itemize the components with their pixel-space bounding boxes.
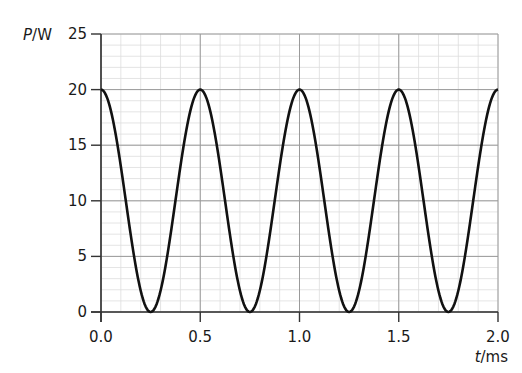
y-tick-label: 20 — [68, 81, 87, 99]
x-tick-label: 1.0 — [288, 328, 312, 346]
x-axis-tick-labels: 0.00.51.01.52.0 — [89, 328, 510, 346]
y-tick-label: 0 — [77, 303, 87, 321]
y-axis-unit: /W — [32, 26, 52, 44]
x-tick-label: 0.0 — [89, 328, 113, 346]
y-axis-label: P/W — [23, 26, 52, 44]
y-tick-label: 25 — [68, 25, 87, 43]
y-tick-label: 10 — [68, 192, 87, 210]
y-axis-tick-labels: 0510152025 — [68, 25, 87, 321]
x-axis-label: t/ms — [475, 348, 509, 366]
x-axis-unit: /ms — [481, 348, 509, 366]
x-tick-label: 0.5 — [188, 328, 212, 346]
y-tick-label: 15 — [68, 136, 87, 154]
x-tick-label: 2.0 — [486, 328, 510, 346]
power-time-chart: 0510152025 0.00.51.01.52.0 P/W t/ms — [0, 0, 522, 373]
y-tick-label: 5 — [77, 247, 87, 265]
x-tick-label: 1.5 — [387, 328, 411, 346]
